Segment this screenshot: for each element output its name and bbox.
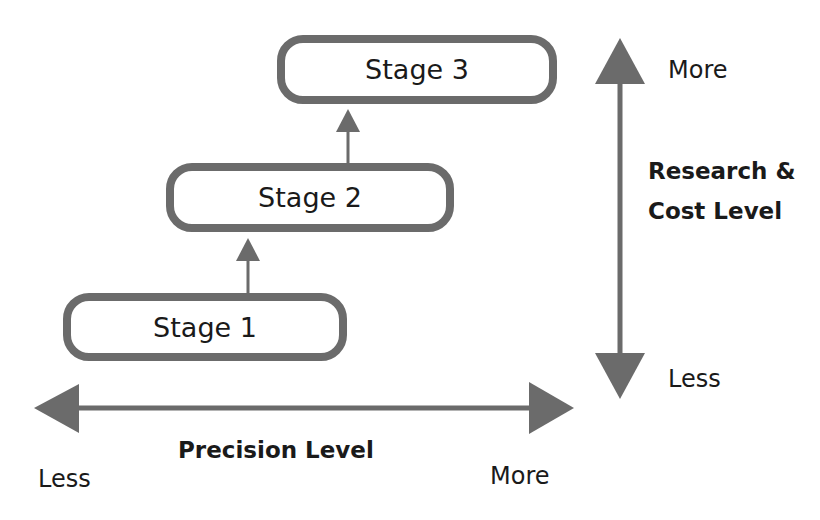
arrow-stage2-to-stage3 <box>336 109 360 164</box>
stage-1-box: Stage 1 <box>63 293 347 361</box>
vertical-double-arrow-icon <box>595 38 645 399</box>
vertical-axis-bottom-label: Less <box>668 365 721 393</box>
vertical-axis-title-line1: Research & <box>648 158 796 184</box>
horizontal-axis-right-label: More <box>490 462 550 490</box>
vertical-axis-top-label: More <box>668 56 728 84</box>
stage-2-box: Stage 2 <box>166 163 454 232</box>
horizontal-axis-title: Precision Level <box>178 437 374 463</box>
stage-3-label: Stage 3 <box>365 54 469 85</box>
horizontal-double-arrow-icon <box>34 382 574 434</box>
arrow-stage1-to-stage2 <box>236 238 260 294</box>
stage-2-label: Stage 2 <box>258 182 362 213</box>
stage-1-label: Stage 1 <box>153 312 257 343</box>
vertical-axis-title-line2: Cost Level <box>648 198 782 224</box>
stage-3-box: Stage 3 <box>277 35 557 104</box>
horizontal-axis-left-label: Less <box>38 465 91 493</box>
